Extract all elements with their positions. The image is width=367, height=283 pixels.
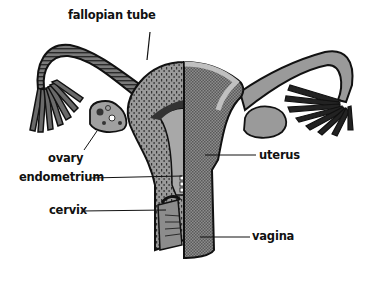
uterus-diagram: fallopian tube ovary endometrium cervix …	[0, 0, 367, 283]
anatomy-illustration	[0, 0, 367, 283]
cervix-leader-line	[81, 210, 166, 211]
ovary-leader-line	[84, 131, 97, 150]
label-ovary: ovary	[48, 151, 83, 165]
left-ovary	[90, 101, 126, 132]
label-fallopian-tube: fallopian tube	[68, 8, 156, 22]
label-cervix: cervix	[49, 203, 87, 217]
uterus-right-half	[184, 62, 243, 258]
left-fimbriae	[30, 80, 83, 132]
uterus-left-half	[128, 62, 185, 250]
label-uterus: uterus	[259, 148, 300, 162]
right-ovary	[244, 106, 286, 137]
label-endometrium: endometrium	[19, 170, 104, 184]
label-vagina: vagina	[252, 229, 294, 243]
fallopian-tube-leader-line	[147, 32, 150, 60]
